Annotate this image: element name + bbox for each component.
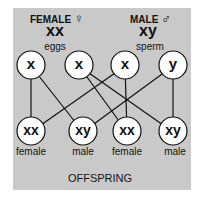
offspring-3-genotype: xx <box>113 122 141 138</box>
offspring-2-genotype: xy <box>69 122 97 138</box>
gamete-1: x <box>17 55 45 72</box>
offspring-1-sex: female <box>11 146 51 157</box>
offspring-1-genotype: xx <box>17 122 45 138</box>
offspring-4-sex: male <box>155 146 195 157</box>
gamete-3: x <box>111 55 139 72</box>
offspring-4-genotype: xy <box>159 122 187 138</box>
offspring-footer: OFFSPRING <box>60 172 140 184</box>
gamete-4: y <box>159 55 187 72</box>
offspring-2-sex: male <box>63 146 103 157</box>
offspring-3-sex: female <box>107 146 147 157</box>
cross-lines <box>0 0 200 200</box>
gamete-2: x <box>65 55 93 72</box>
